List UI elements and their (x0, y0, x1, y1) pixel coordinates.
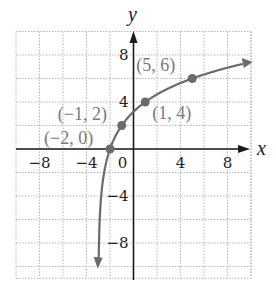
y-tick-label: −4 (106, 187, 128, 205)
data-point (141, 98, 150, 107)
y-tick-label: 4 (119, 93, 129, 111)
chart-canvas: x y −8−404884−4−8 (−2, 0)(−1, 2)(1, 4)(5… (0, 0, 276, 285)
point-label: (5, 6) (136, 55, 175, 76)
x-axis-label: x (256, 137, 266, 159)
point-label: (−2, 0) (44, 128, 93, 149)
point-label: (1, 4) (152, 103, 191, 124)
x-tick-label: 0 (118, 154, 128, 172)
y-tick-label: −8 (106, 234, 128, 252)
data-point (117, 121, 126, 130)
y-axis-label: y (126, 3, 137, 26)
data-point (188, 74, 197, 83)
y-axis-arrow-icon (130, 31, 138, 43)
x-tick-label: 4 (176, 154, 186, 172)
x-tick-label: −4 (75, 154, 97, 172)
point-label: (−1, 2) (58, 104, 107, 125)
x-tick-label: −8 (28, 154, 50, 172)
x-tick-label: 8 (223, 154, 233, 172)
data-point (106, 145, 115, 154)
x-axis-arrow-icon (238, 145, 250, 153)
y-tick-label: 8 (119, 46, 129, 64)
